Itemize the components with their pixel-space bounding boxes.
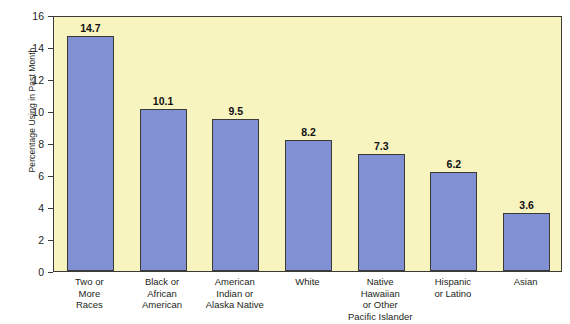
y-axis-tick-label: 2: [38, 234, 44, 246]
bar: [140, 109, 187, 271]
x-axis-labels: Two or More RacesBlack or African Americ…: [53, 276, 562, 324]
bar-chart: Percentage Using in Past Month 161412108…: [0, 0, 570, 324]
x-axis-category-label: Black or African American: [126, 276, 199, 311]
y-axis-tick-label: 16: [32, 10, 44, 22]
bar: [358, 154, 405, 271]
plot-area: 14.710.19.58.27.36.23.6: [53, 16, 562, 272]
bar-slot: 7.3: [358, 17, 405, 271]
bar-value-label: 9.5: [198, 105, 273, 117]
y-axis-tick-label: 8: [38, 138, 44, 150]
y-axis-tick-label: 0: [38, 266, 44, 278]
bar-slot: 9.5: [212, 17, 259, 271]
bar-value-label: 6.2: [416, 158, 491, 170]
y-axis-tick-label: 6: [38, 170, 44, 182]
bar-value-label: 14.7: [53, 22, 128, 34]
bar-value-label: 10.1: [126, 95, 201, 107]
y-axis: 1614121086420: [0, 0, 53, 324]
bar-value-label: 3.6: [489, 199, 564, 211]
bar-slot: 14.7: [67, 17, 114, 271]
x-axis-category-label: White: [271, 276, 344, 288]
y-axis-tick-label: 10: [32, 106, 44, 118]
x-axis-category-label: American Indian or Alaska Native: [198, 276, 271, 311]
bar-value-label: 7.3: [344, 140, 419, 152]
y-axis-tick-label: 4: [38, 202, 44, 214]
x-axis-category-label: Native Hawaiian or Other Pacific Islande…: [344, 276, 417, 322]
bar: [503, 213, 550, 271]
bar: [67, 36, 114, 271]
y-axis-tick-label: 14: [32, 42, 44, 54]
y-axis-tick-mark: [48, 272, 53, 273]
bar-value-label: 8.2: [271, 126, 346, 138]
x-axis-category-label: Hispanic or Latino: [417, 276, 490, 299]
y-axis-tick-label: 12: [32, 74, 44, 86]
bar: [285, 140, 332, 271]
x-axis-category-label: Asian: [489, 276, 562, 288]
bar: [212, 119, 259, 271]
x-axis-category-label: Two or More Races: [53, 276, 126, 311]
bar-slot: 6.2: [430, 17, 477, 271]
bar-slot: 8.2: [285, 17, 332, 271]
bar-slot: 10.1: [140, 17, 187, 271]
bar-slot: 3.6: [503, 17, 550, 271]
bar: [430, 172, 477, 271]
